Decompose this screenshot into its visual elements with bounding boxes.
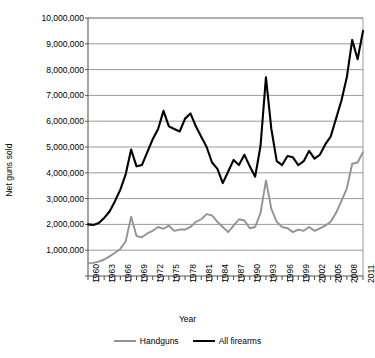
x-axis-tick-label: 1990 bbox=[253, 264, 262, 283]
legend-item-all-firearms: All firearms bbox=[193, 336, 262, 346]
x-axis-tick-label: 2011 bbox=[367, 265, 375, 283]
x-axis-tick-label: 1996 bbox=[286, 264, 295, 283]
legend-swatch-icon bbox=[193, 340, 215, 342]
legend-item-handguns: Handguns bbox=[114, 336, 179, 346]
x-axis-tick-label: 2005 bbox=[334, 264, 343, 283]
x-axis-tick-label: 1987 bbox=[237, 264, 246, 283]
x-axis-tick-label: 1966 bbox=[124, 264, 133, 283]
x-axis-tick-label: 2008 bbox=[350, 264, 359, 283]
x-axis-tick-label: 1975 bbox=[172, 264, 181, 283]
x-axis-tick-label: 1963 bbox=[108, 264, 117, 283]
x-axis-tick-label: 1993 bbox=[269, 264, 278, 283]
x-axis-label: Year bbox=[0, 314, 375, 324]
x-axis-tick-label: 2002 bbox=[318, 264, 327, 283]
x-axis-tick-label: 1969 bbox=[140, 264, 149, 283]
x-axis-tick-labels: 1960196319661969197219751978198119841987… bbox=[0, 0, 375, 358]
x-axis-tick-label: 1960 bbox=[92, 264, 101, 283]
legend-swatch-icon bbox=[114, 340, 136, 342]
legend-label: Handguns bbox=[140, 336, 179, 346]
x-axis-tick-label: 1999 bbox=[302, 264, 311, 283]
x-axis-tick-label: 1972 bbox=[156, 264, 165, 283]
x-axis-tick-label: 1978 bbox=[189, 264, 198, 283]
x-axis-tick-label: 1984 bbox=[221, 264, 230, 283]
x-axis-tick-label: 1981 bbox=[205, 264, 214, 283]
chart-legend: HandgunsAll firearms bbox=[0, 336, 375, 346]
legend-label: All firearms bbox=[219, 336, 262, 346]
line-chart: Net guns sold 10,000,0009,000,0008,000,0… bbox=[0, 0, 375, 358]
